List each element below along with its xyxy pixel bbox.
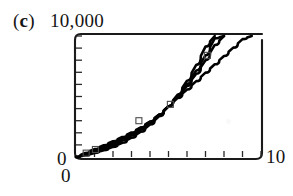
y-axis-ticks bbox=[76, 36, 82, 145]
x-axis-ticks bbox=[95, 151, 262, 157]
axis-frame bbox=[75, 34, 262, 159]
data-curve bbox=[76, 36, 215, 157]
curve-group bbox=[76, 36, 252, 157]
data-point-marker bbox=[136, 118, 142, 124]
data-curve bbox=[76, 36, 252, 157]
frame-path bbox=[75, 34, 262, 159]
figure-panel-c: (c) 10,000 0 0 10 bbox=[0, 0, 293, 196]
marker-group bbox=[83, 52, 210, 156]
plot-area bbox=[0, 0, 293, 196]
